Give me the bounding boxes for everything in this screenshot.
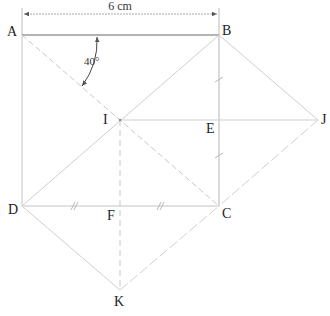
dimension-6cm: 6 cm — [22, 0, 219, 35]
label-d: D — [8, 202, 18, 217]
label-e: E — [206, 121, 215, 136]
segment-kc — [120, 206, 219, 290]
geometry-diagram: 6 cm 40° A B C D I E J F K — [0, 0, 330, 316]
point-i-dot — [119, 119, 121, 121]
dimension-label: 6 cm — [108, 0, 132, 13]
label-c: C — [222, 206, 231, 221]
label-k: K — [114, 294, 124, 309]
label-b: B — [222, 23, 231, 38]
segment-jc — [219, 120, 318, 206]
label-f: F — [107, 208, 115, 223]
label-i: I — [103, 112, 108, 127]
label-j: J — [321, 112, 327, 127]
angle-label: 40° — [84, 55, 99, 67]
label-a: A — [7, 24, 18, 39]
angle-40: 40° — [82, 37, 99, 86]
segment-dk — [22, 206, 120, 290]
segment-bj — [219, 35, 318, 120]
